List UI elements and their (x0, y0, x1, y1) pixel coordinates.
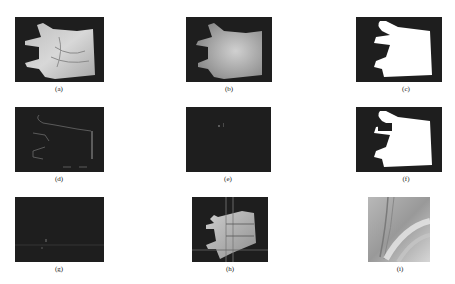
panel-h-image (192, 197, 268, 262)
panel-e-image (186, 107, 271, 172)
palm-roi-image (368, 197, 430, 262)
panel-b-image (186, 17, 272, 82)
caption-g: (g) (39, 265, 79, 273)
caption-f: (f) (386, 175, 426, 183)
caption-i: (i) (380, 265, 420, 273)
key-point-image (15, 197, 104, 262)
panel-g-image (15, 197, 104, 262)
panel-a-image (15, 17, 104, 82)
hand-roi-grid-image (192, 197, 268, 262)
hand-binary-image (356, 17, 442, 82)
feature-point-image (186, 107, 271, 172)
hand-binary-notch-image (356, 107, 442, 172)
hand-contour-image (15, 107, 104, 172)
caption-e: (e) (208, 175, 248, 183)
caption-a: (a) (39, 85, 79, 93)
caption-h: (h) (210, 265, 250, 273)
panel-f-image (356, 107, 442, 172)
hand-smoothed-image (186, 17, 272, 82)
caption-b: (b) (209, 85, 249, 93)
panel-i-image (368, 197, 430, 262)
panel-c-image (356, 17, 442, 82)
hand-grayscale-image (15, 17, 104, 82)
panel-d-image (15, 107, 104, 172)
caption-d: (d) (39, 175, 79, 183)
caption-c: (c) (386, 85, 426, 93)
